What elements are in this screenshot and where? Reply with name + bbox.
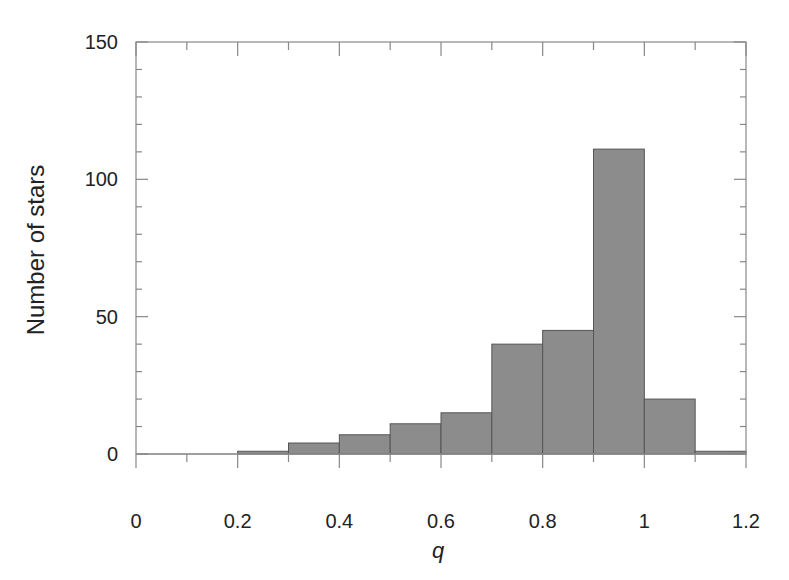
histogram-bar xyxy=(441,413,492,454)
y-tick-label: 100 xyxy=(85,168,118,190)
x-axis-label: q xyxy=(432,538,445,563)
histogram-bar xyxy=(543,330,594,454)
x-tick-label: 0.2 xyxy=(224,510,252,532)
histogram-chart: 00.20.40.60.811.2 050100150 q Number of … xyxy=(0,0,789,580)
x-tick-label: 0 xyxy=(130,510,141,532)
y-axis-label: Number of stars xyxy=(22,165,49,336)
histogram-bar xyxy=(390,424,441,454)
y-axis-tick-labels: 050100150 xyxy=(85,31,118,465)
histogram-bar xyxy=(339,435,390,454)
x-axis-tick-labels: 00.20.40.60.811.2 xyxy=(130,510,759,532)
chart-canvas: 00.20.40.60.811.2 050100150 q Number of … xyxy=(0,0,789,580)
y-tick-label: 0 xyxy=(107,443,118,465)
histogram-bar xyxy=(289,443,340,454)
x-tick-label: 0.6 xyxy=(427,510,455,532)
x-tick-label: 0.8 xyxy=(529,510,557,532)
y-tick-label: 50 xyxy=(96,306,118,328)
histogram-bar xyxy=(644,399,695,454)
bar-series xyxy=(136,149,746,454)
plot-frame xyxy=(136,42,746,454)
x-tick-label: 1 xyxy=(639,510,650,532)
histogram-bar xyxy=(594,149,645,454)
x-tick-label: 0.4 xyxy=(325,510,353,532)
x-tick-label: 1.2 xyxy=(732,510,760,532)
y-tick-label: 150 xyxy=(85,31,118,53)
histogram-bar xyxy=(492,344,543,454)
